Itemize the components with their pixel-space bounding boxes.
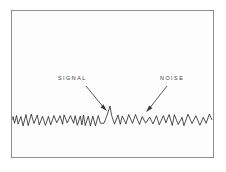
signal-arrow-group (86, 86, 107, 111)
signal-arrow-line (86, 86, 105, 109)
noise-annotation-label: NOISE (160, 75, 184, 81)
noise-arrow-line (149, 86, 168, 110)
noise-arrow-head (146, 106, 152, 112)
waveform-trace (13, 106, 212, 126)
signal-annotation-label: SIGNAL (58, 75, 87, 81)
noise-arrow-group (146, 86, 167, 112)
noise-trace-group (13, 106, 212, 126)
waveform-canvas (0, 0, 226, 172)
signal-noise-figure: SIGNAL NOISE (0, 0, 226, 172)
